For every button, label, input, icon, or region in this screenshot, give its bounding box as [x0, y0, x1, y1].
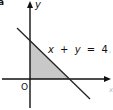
y-axis-arrow-icon — [27, 1, 33, 8]
eq-y: y — [74, 44, 82, 55]
eq-x: x — [47, 44, 54, 55]
part-label: a — [0, 0, 4, 7]
origin-label: O — [21, 82, 28, 92]
x-axis-label: x — [108, 86, 113, 94]
equation-label: x + y = 4 — [47, 44, 108, 55]
graph-figure: a y O x x + y = 4 — [0, 0, 113, 110]
x-axis-arrow-icon — [104, 76, 111, 82]
eq-four: 4 — [101, 44, 107, 55]
eq-equals: = — [87, 44, 95, 55]
y-axis-label: y — [34, 0, 42, 10]
eq-plus: + — [60, 44, 68, 55]
stray-mark — [109, 51, 110, 52]
